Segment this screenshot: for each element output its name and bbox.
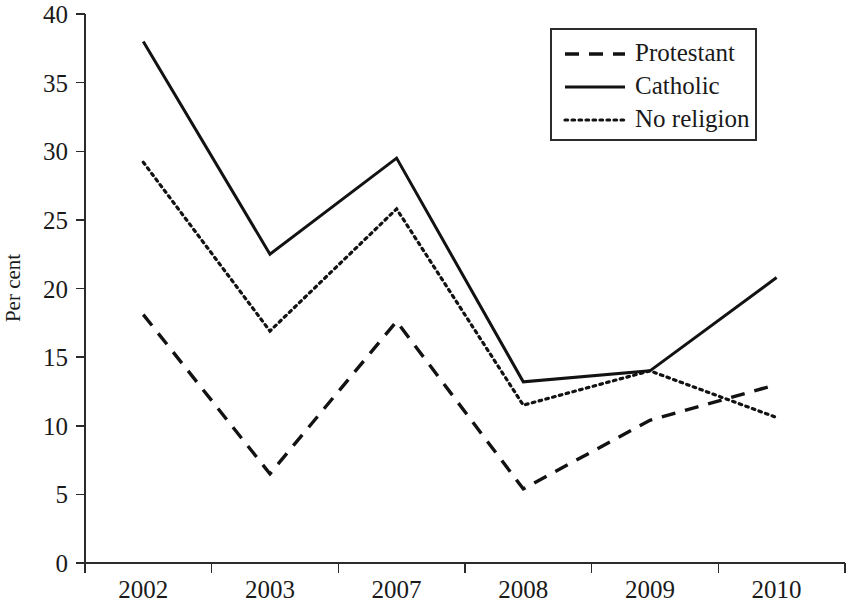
x-tick-label: 2003 <box>245 576 295 603</box>
x-tick-label: 2002 <box>118 576 168 603</box>
y-tick-label: 0 <box>56 550 69 577</box>
y-tick-group: 0510152025303540 <box>43 1 85 577</box>
x-tick-label: 2009 <box>625 576 675 603</box>
line-chart: 0510152025303540 20022003200720082009201… <box>0 0 854 605</box>
y-axis-title: Per cent <box>1 254 25 322</box>
y-tick-label: 35 <box>43 70 68 97</box>
y-tick-label: 10 <box>43 413 68 440</box>
y-tick-label: 15 <box>43 344 68 371</box>
series-line-protestant <box>143 315 776 489</box>
y-tick-label: 20 <box>43 276 68 303</box>
x-tick-label: 2010 <box>752 576 802 603</box>
legend-label-protestant: Protestant <box>635 39 735 66</box>
legend-label-catholic: Catholic <box>635 72 720 99</box>
chart-canvas: 0510152025303540 20022003200720082009201… <box>0 0 854 605</box>
x-tick-group: 200220032007200820092010 <box>85 563 845 603</box>
y-tick-label: 25 <box>43 207 68 234</box>
chart-legend: ProtestantCatholicNo religion <box>551 29 756 140</box>
y-tick-label: 40 <box>43 1 68 28</box>
x-tick-label: 2007 <box>372 576 422 603</box>
x-tick-label: 2008 <box>498 576 548 603</box>
legend-label-no-religion: No religion <box>635 105 750 132</box>
y-tick-label: 5 <box>56 481 69 508</box>
y-tick-label: 30 <box>43 138 68 165</box>
